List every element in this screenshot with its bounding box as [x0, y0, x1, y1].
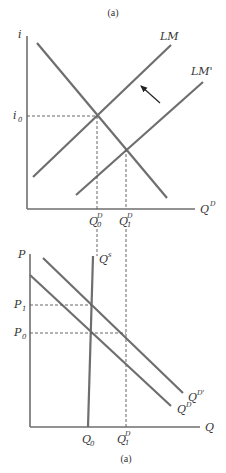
- svg-text:D: D: [96, 212, 103, 220]
- p1-mark: P 1: [13, 298, 26, 313]
- shift-arrow-icon: [141, 86, 160, 103]
- lm-label: LM: [159, 30, 179, 43]
- top-panel: (a) i Q D LM LM' i 0 Q D: [13, 7, 216, 229]
- diagram-canvas: (a) i Q D LM LM' i 0 Q D: [0, 0, 226, 473]
- qs-curve: [88, 256, 93, 427]
- svg-text:D: D: [124, 430, 131, 438]
- svg-text:D: D: [126, 212, 133, 220]
- svg-text:D: D: [185, 401, 192, 409]
- svg-text:Q: Q: [200, 203, 209, 216]
- bottom-panel: P Q Q s Q D' Q D P 1 P 0: [13, 248, 214, 465]
- svg-text:0: 0: [97, 221, 102, 229]
- svg-text:1: 1: [22, 305, 26, 313]
- svg-text:Q: Q: [177, 403, 186, 416]
- qd-label: Q D: [177, 401, 192, 416]
- i0-mark: i 0: [13, 109, 23, 124]
- q1d-bottom-mark: Q D 1: [117, 430, 131, 447]
- svg-text:s: s: [108, 251, 112, 259]
- top-y-axis-label: i: [18, 28, 22, 41]
- svg-text:D': D': [196, 389, 205, 397]
- lm-curve: [33, 45, 171, 177]
- svg-text:D: D: [209, 200, 216, 208]
- q0-mark: Q 0: [82, 433, 95, 448]
- qs-label: Q s: [99, 251, 112, 266]
- svg-text:P: P: [13, 326, 22, 339]
- qd-prime-curve: [43, 258, 183, 393]
- svg-text:0: 0: [90, 440, 95, 448]
- qd-curve: [30, 275, 171, 406]
- bottom-caption: (a): [120, 453, 131, 465]
- top-caption: (a): [107, 7, 118, 19]
- svg-text:0: 0: [22, 333, 27, 341]
- q0d-mark: Q D 0: [89, 212, 103, 229]
- svg-text:Q: Q: [99, 253, 108, 266]
- svg-text:P: P: [13, 298, 22, 311]
- q1d-mark: Q D 1: [119, 212, 133, 229]
- lm-prime-curve: [76, 82, 203, 195]
- lm-prime-label: LM': [190, 65, 213, 78]
- svg-text:0: 0: [18, 116, 23, 124]
- top-x-axis-label: Q D: [200, 200, 216, 216]
- svg-text:i: i: [13, 109, 17, 122]
- bottom-x-axis-label: Q: [205, 421, 214, 434]
- p0-mark: P 0: [13, 326, 27, 341]
- svg-text:1: 1: [125, 439, 129, 447]
- svg-text:1: 1: [127, 221, 131, 229]
- bottom-y-axis-label: P: [17, 248, 26, 261]
